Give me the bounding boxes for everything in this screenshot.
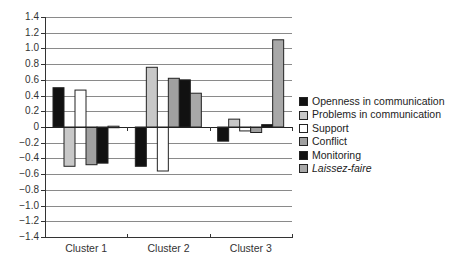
- y-tick-label: −1.2: [5, 216, 39, 226]
- y-tick-label: 1.4: [5, 12, 39, 22]
- x-category-label: Cluster 1: [45, 242, 127, 254]
- legend-label: Monitoring: [312, 149, 361, 162]
- legend-swatch-icon: [299, 97, 308, 106]
- legend-label: Problems in communication: [312, 108, 441, 121]
- legend-item: Laissez-faire: [299, 162, 445, 175]
- y-tick-label: −0.2: [5, 138, 39, 148]
- y-tick-label: 0.2: [5, 106, 39, 116]
- y-tick-label: 0.4: [5, 91, 39, 101]
- legend-item: Openness in communication: [299, 95, 445, 108]
- legend-swatch-icon: [299, 137, 308, 146]
- legend-item: Conflict: [299, 135, 445, 148]
- y-tick-label: −0.4: [5, 153, 39, 163]
- bar-conflict: [86, 127, 97, 165]
- legend-swatch-icon: [299, 164, 308, 173]
- legend-label: Laissez-faire: [312, 162, 372, 175]
- y-tick-label: −1.4: [5, 232, 39, 242]
- legend-label: Conflict: [312, 135, 347, 148]
- bar-monitoring: [262, 125, 273, 127]
- bar-openness-in-communication: [53, 88, 64, 127]
- y-tick-label: −0.6: [5, 169, 39, 179]
- bar-problems-in-communication: [146, 67, 157, 127]
- legend-swatch-icon: [299, 124, 308, 133]
- bar-chart: 1.41.21.00.80.60.40.20−0.2−0.4−0.6−0.8−1…: [0, 0, 462, 264]
- bar-openness-in-communication: [135, 127, 146, 166]
- bar-monitoring: [97, 127, 108, 163]
- legend-label: Support: [312, 122, 349, 135]
- y-tick-label: −0.8: [5, 185, 39, 195]
- legend-item: Monitoring: [299, 149, 445, 162]
- y-tick-label: 1.0: [5, 43, 39, 53]
- bar-conflict: [168, 78, 179, 127]
- x-category-label: Cluster 3: [210, 242, 292, 254]
- y-tick-label: −1.0: [5, 201, 39, 211]
- legend: Openness in communicationProblems in com…: [299, 95, 445, 175]
- bar-support: [75, 90, 86, 127]
- y-tick-label: 1.2: [5, 28, 39, 38]
- bar-problems-in-communication: [64, 127, 75, 166]
- bar-openness-in-communication: [218, 127, 229, 141]
- y-tick-label: 0.8: [5, 59, 39, 69]
- bar-laissez-faire: [273, 40, 284, 127]
- legend-item: Support: [299, 122, 445, 135]
- y-tick-label: 0: [5, 122, 39, 132]
- y-tick-label: 0.6: [5, 75, 39, 85]
- legend-swatch-icon: [299, 151, 308, 160]
- bar-problems-in-communication: [229, 119, 240, 127]
- x-category-label: Cluster 2: [128, 242, 210, 254]
- bar-monitoring: [179, 80, 190, 127]
- bar-support: [157, 127, 168, 171]
- legend-item: Problems in communication: [299, 108, 445, 121]
- legend-label: Openness in communication: [312, 95, 445, 108]
- legend-swatch-icon: [299, 111, 308, 120]
- bar-laissez-faire: [190, 93, 201, 127]
